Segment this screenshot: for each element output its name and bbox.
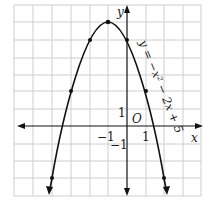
x-axis-label: x <box>191 131 198 145</box>
point <box>50 176 54 180</box>
y-axis-label: y <box>116 5 124 19</box>
vertex-point <box>106 20 111 25</box>
point <box>88 38 92 42</box>
origin-label: O <box>132 112 142 126</box>
parabola-graph: y x O −1 1 1 −1 y = −x² − 2x + 5 <box>0 0 215 210</box>
point <box>69 89 73 93</box>
x-axis-left-arrow-icon <box>17 123 25 129</box>
y-axis-top-arrow-icon <box>124 5 130 13</box>
tick-label-y-neg1: −1 <box>110 138 128 152</box>
y-axis-bottom-arrow-icon <box>124 188 130 196</box>
tick-label-y-1: 1 <box>118 106 126 120</box>
point <box>162 176 166 180</box>
point <box>144 89 148 93</box>
point <box>125 38 129 42</box>
tick-label-x-1: 1 <box>142 130 150 144</box>
x-axis-right-arrow-icon <box>195 123 203 129</box>
